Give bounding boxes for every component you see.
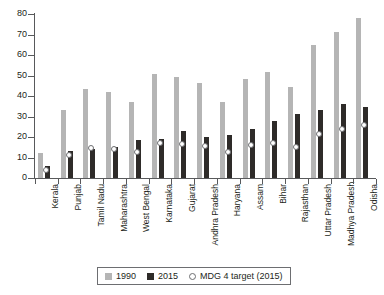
y-axis-tick-label: 50 xyxy=(1,71,27,80)
chart-legend: 1990 2015 MDG 4 target (2015) xyxy=(97,267,291,285)
x-axis-labels: KeralaPunjabTamil NaduMaharashtraWest Be… xyxy=(35,184,376,246)
y-axis-tick xyxy=(28,14,35,15)
legend-item-mdg-target: MDG 4 target (2015) xyxy=(189,271,283,281)
y-axis-tick xyxy=(28,158,35,159)
bar-group xyxy=(262,14,285,178)
x-axis-tick xyxy=(217,179,218,184)
bar-2015 xyxy=(136,140,141,178)
x-axis-tick xyxy=(331,179,332,184)
bar-group xyxy=(171,14,194,178)
legend-swatch-target-icon xyxy=(189,273,196,280)
y-axis-tick xyxy=(28,35,35,36)
y-axis-tick xyxy=(28,76,35,77)
x-axis-tick xyxy=(240,179,241,184)
mdg-target-marker xyxy=(248,142,254,148)
legend-item-1990: 1990 xyxy=(105,271,136,281)
legend-label-2015: 2015 xyxy=(158,271,178,281)
bar-group xyxy=(103,14,126,178)
legend-item-2015: 2015 xyxy=(147,271,178,281)
x-axis-tick xyxy=(308,179,309,184)
bar-1990 xyxy=(129,102,134,178)
x-axis-category-label: Karnataka xyxy=(164,184,174,246)
y-axis-labels: 80706050403020100 xyxy=(0,0,27,295)
bar-2015 xyxy=(318,110,323,178)
legend-label-1990: 1990 xyxy=(116,271,136,281)
y-axis-tick-label: 70 xyxy=(1,30,27,39)
bar-2015 xyxy=(341,104,346,178)
bar-1990 xyxy=(243,79,248,178)
bar-1990 xyxy=(220,102,225,178)
bar-group xyxy=(80,14,103,178)
bar-2015 xyxy=(250,129,255,178)
x-axis-tick xyxy=(126,179,127,184)
x-axis-tick xyxy=(80,179,81,184)
bar-1990 xyxy=(265,72,270,178)
bar-1990 xyxy=(83,89,88,178)
x-axis-category-label: Punjab xyxy=(73,184,83,246)
mdg-target-marker xyxy=(43,167,49,173)
bar-1990 xyxy=(174,77,179,178)
bar-1990 xyxy=(197,83,202,178)
bar-1990 xyxy=(152,74,157,178)
x-axis-category-label: West Bengal xyxy=(141,184,151,246)
x-axis-category-label: Madhya Pradesh xyxy=(346,184,356,246)
bar-2015 xyxy=(90,149,95,178)
y-axis-tick xyxy=(28,137,35,138)
legend-label-mdg-target: MDG 4 target (2015) xyxy=(200,271,283,281)
bar-1990 xyxy=(61,110,66,178)
mdg-target-marker xyxy=(339,126,345,132)
bar-group xyxy=(58,14,81,178)
y-axis-tick xyxy=(28,55,35,56)
mdg-target-marker xyxy=(361,122,367,128)
bar-group xyxy=(126,14,149,178)
x-axis-tick xyxy=(171,179,172,184)
x-axis-category-label: Andhra Pradesh xyxy=(210,184,220,246)
x-axis-tick xyxy=(376,179,377,184)
bar-group xyxy=(285,14,308,178)
x-axis-line xyxy=(34,178,376,179)
bar-2015 xyxy=(363,107,368,178)
x-axis-tick xyxy=(149,179,150,184)
bar-group xyxy=(353,14,376,178)
x-axis-category-label: Maharashtra xyxy=(119,184,129,246)
x-axis-category-label: Gujarat xyxy=(187,184,197,246)
y-axis-tick-label: 0 xyxy=(1,173,27,182)
x-axis-tick xyxy=(103,179,104,184)
y-axis-tick-label: 80 xyxy=(1,9,27,18)
mdg-target-marker xyxy=(157,140,163,146)
x-axis-tick xyxy=(194,179,195,184)
legend-swatch-1990-icon xyxy=(105,273,112,280)
bar-2015 xyxy=(181,131,186,178)
bar-group xyxy=(149,14,172,178)
x-axis-tick xyxy=(262,179,263,184)
bar-1990 xyxy=(288,87,293,178)
bar-2015 xyxy=(227,135,232,178)
x-axis-tick xyxy=(58,179,59,184)
legend-swatch-2015-icon xyxy=(147,273,154,280)
y-axis-tick xyxy=(28,117,35,118)
grouped-bar-chart: 80706050403020100 KeralaPunjabTamil Nadu… xyxy=(0,0,384,295)
x-axis-category-label: Bihar xyxy=(278,184,288,246)
x-axis-category-label: Haryana xyxy=(232,184,242,246)
x-axis-category-label: Assam xyxy=(255,184,265,246)
bar-2015 xyxy=(272,121,277,178)
y-axis-tick xyxy=(28,178,35,179)
x-axis-category-label: Tamil Nadu xyxy=(96,184,106,246)
bar-1990 xyxy=(356,18,361,178)
y-axis-tick-label: 60 xyxy=(1,50,27,59)
plot-area xyxy=(35,14,376,178)
mdg-target-marker xyxy=(316,131,322,137)
y-axis-tick-label: 40 xyxy=(1,91,27,100)
x-axis-category-label: Odisha xyxy=(369,184,379,246)
y-axis-tick-label: 20 xyxy=(1,132,27,141)
x-axis-category-label: Kerala xyxy=(50,184,60,246)
bar-group xyxy=(194,14,217,178)
y-axis-tick-label: 30 xyxy=(1,112,27,121)
bar-group xyxy=(35,14,58,178)
x-axis-category-label: Uttar Pradesh xyxy=(323,184,333,246)
x-axis-tick xyxy=(285,179,286,184)
y-axis-tick-label: 10 xyxy=(1,153,27,162)
y-axis-tick xyxy=(28,96,35,97)
x-axis-category-label: Rajasthan xyxy=(300,184,310,246)
bar-group xyxy=(308,14,331,178)
